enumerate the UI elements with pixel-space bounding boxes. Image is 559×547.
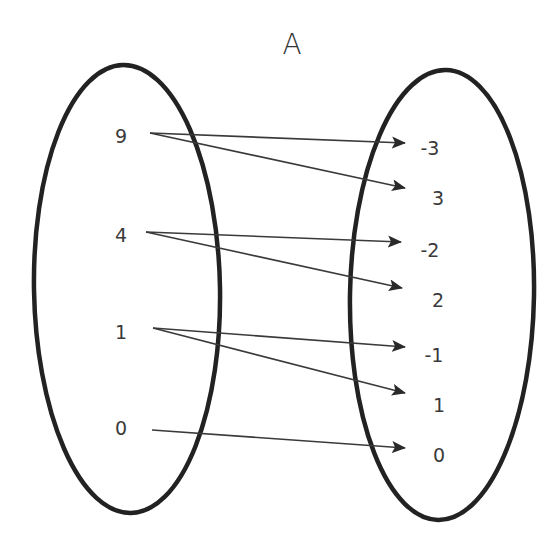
range-value: 0 bbox=[433, 444, 445, 466]
range-value: -2 bbox=[421, 239, 440, 261]
range-value: 2 bbox=[432, 289, 444, 311]
range-value: -1 bbox=[425, 344, 444, 366]
range-value: 3 bbox=[432, 187, 444, 209]
domain-value: 1 bbox=[115, 321, 127, 343]
domain-value: 0 bbox=[115, 417, 127, 439]
range-value: 1 bbox=[433, 394, 445, 416]
mapping-diagram: A 9 4 1 0 -3 3 -2 2 -1 1 0 bbox=[0, 0, 559, 547]
diagram-title: A bbox=[282, 28, 301, 61]
domain-value: 9 bbox=[115, 125, 127, 147]
domain-value: 4 bbox=[115, 224, 127, 246]
range-value: -3 bbox=[421, 137, 440, 159]
